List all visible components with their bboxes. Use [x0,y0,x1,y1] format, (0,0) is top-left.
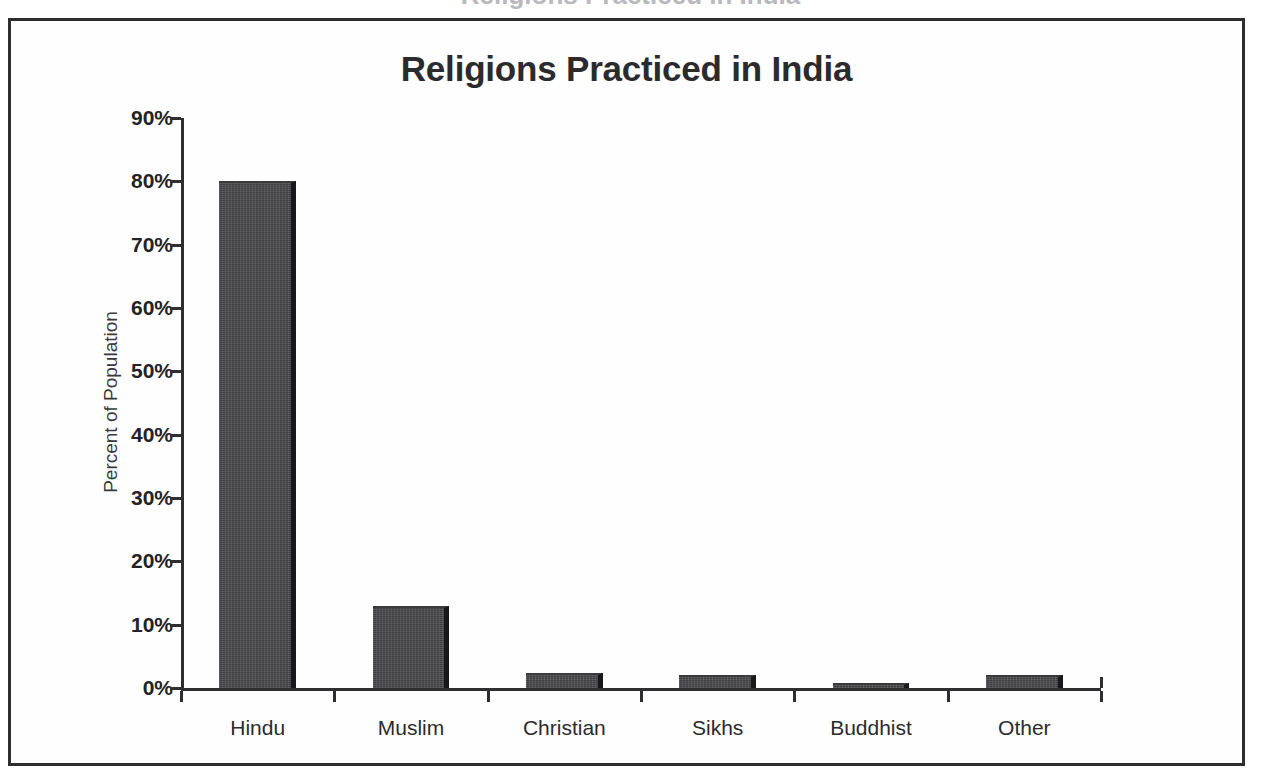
y-axis-tick [170,117,181,120]
x-axis-tick [333,691,336,702]
y-axis-tick-label: 40% [103,423,173,447]
x-axis-tick [487,691,490,702]
y-axis-tick-label: 80% [103,169,173,193]
y-axis-tick [170,370,181,373]
bar-sikhs[interactable] [679,675,756,688]
chart-frame: Religions Practiced in India Percent of … [8,18,1245,766]
y-axis-tick [170,244,181,247]
x-axis-category-label: Christian [523,716,606,740]
y-axis-tick-label: 0% [103,676,173,700]
x-axis-tick [180,691,183,702]
x-axis-category-label: Other [998,716,1051,740]
y-axis-tick [170,434,181,437]
y-axis-tick [170,307,181,310]
x-axis-category-label: Buddhist [830,716,912,740]
plot-area: Percent of Population 0%10%20%30%40%50%6… [11,21,1242,763]
y-axis-line [181,118,184,691]
x-axis-tick [640,691,643,702]
x-axis-tick [1100,691,1103,702]
bar-hindu[interactable] [219,181,296,688]
x-axis-category-label: Muslim [378,716,445,740]
y-axis-tick [170,180,181,183]
x-axis-category-label: Sikhs [692,716,743,740]
x-axis-tick [947,691,950,702]
x-axis-end-tick [1100,677,1103,688]
y-axis-tick [170,497,181,500]
y-axis-tick-label: 30% [103,486,173,510]
cut-off-heading-sliver: Religions Practiced in India [0,0,1261,9]
bar-other[interactable] [986,675,1063,688]
cut-off-heading-text: Religions Practiced in India [461,0,801,9]
x-axis-category-label: Hindu [230,716,285,740]
y-axis-tick-label: 50% [103,359,173,383]
bar-muslim[interactable] [373,606,450,688]
bar-buddhist[interactable] [833,683,910,688]
y-axis-tick [170,687,181,690]
bar-christian[interactable] [526,673,603,688]
y-axis-tick-label: 20% [103,549,173,573]
y-axis-tick-label: 60% [103,296,173,320]
y-axis-tick-labels: 0%10%20%30%40%50%60%70%80%90% [91,21,173,763]
y-axis-tick [170,560,181,563]
y-axis-tick-label: 70% [103,233,173,257]
x-axis-tick [793,691,796,702]
y-axis-tick-label: 10% [103,613,173,637]
y-axis-tick [170,624,181,627]
y-axis-tick-label: 90% [103,106,173,130]
